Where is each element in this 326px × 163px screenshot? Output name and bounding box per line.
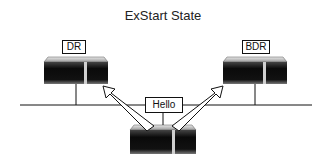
router-dr-label: DR xyxy=(62,40,86,54)
router-bdr-label: BDR xyxy=(242,40,270,54)
hello-packet-label: Hello xyxy=(145,97,183,113)
network-diagram xyxy=(0,0,326,163)
router-dr-icon xyxy=(44,57,108,105)
router-bdr-icon xyxy=(223,57,287,105)
